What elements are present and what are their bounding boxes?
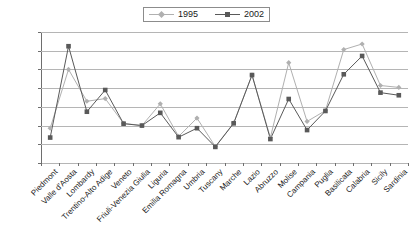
x-tick-mark bbox=[298, 163, 299, 166]
legend-entry-2002: 2002 bbox=[215, 8, 264, 21]
x-axis-label-sardinia: Sardinia bbox=[382, 168, 408, 194]
data-point-2002-Puglia bbox=[323, 109, 328, 114]
x-tick-mark bbox=[371, 163, 372, 166]
data-point-1995-Lombardy bbox=[84, 99, 89, 104]
series-line-1995 bbox=[50, 44, 399, 147]
x-axis-label-piedmont: Piedmont bbox=[30, 168, 60, 198]
data-point-2002-Lombardy bbox=[85, 109, 90, 114]
data-point-2002-Emilia Romagna bbox=[176, 135, 181, 140]
x-tick-mark bbox=[353, 163, 354, 166]
data-point-1995-Calabria bbox=[360, 41, 365, 46]
x-axis-label-sicily: Sicily bbox=[371, 168, 390, 187]
x-tick-mark bbox=[114, 163, 115, 166]
x-tick-mark bbox=[408, 163, 409, 166]
x-axis-label-lombardy: Lombardy bbox=[65, 168, 96, 199]
legend-label-1995: 1995 bbox=[178, 10, 198, 19]
x-axis-label-puglia: Puglia bbox=[314, 168, 335, 189]
x-tick-mark bbox=[243, 163, 244, 166]
legend-entry-1995: 1995 bbox=[149, 8, 198, 21]
x-tick-mark bbox=[280, 163, 281, 166]
data-point-2002-Trentino-Alto Adige bbox=[103, 88, 108, 93]
x-tick-mark bbox=[335, 163, 336, 166]
data-point-2002-Basilicata bbox=[341, 72, 346, 77]
x-tick-mark bbox=[390, 163, 391, 166]
legend-marker-1995 bbox=[149, 10, 174, 19]
x-axis-label-basilicata: Basilicata bbox=[324, 168, 354, 198]
x-axis-label-trentino-alto-adige: Trentino-Alto Adige bbox=[61, 168, 115, 222]
x-tick-mark bbox=[169, 163, 170, 166]
x-tick-mark bbox=[133, 163, 134, 166]
data-point-2002-Calabria bbox=[360, 54, 365, 59]
series-layer bbox=[41, 32, 408, 163]
x-axis-label-friuli-venezia-giulia: Friuli-Venezia Giulia bbox=[96, 168, 152, 224]
x-tick-mark bbox=[59, 163, 60, 166]
x-tick-mark bbox=[261, 163, 262, 166]
line-chart: 1995 2002 0.450.40.350.30.250.20.150.1 P… bbox=[0, 0, 417, 229]
x-tick-mark bbox=[188, 163, 189, 166]
data-point-2002-Liguria bbox=[158, 111, 163, 116]
data-point-2002-Lazio bbox=[250, 73, 255, 78]
x-axis-label-calabria: Calabria bbox=[345, 168, 372, 195]
x-tick-mark bbox=[41, 163, 42, 166]
series-line-2002 bbox=[50, 46, 399, 147]
x-axis-label-molise: Molise bbox=[276, 168, 298, 190]
data-point-2002-Tuscany bbox=[213, 145, 218, 150]
data-point-2002-Sardinia bbox=[397, 93, 402, 98]
x-axis-label-emilia-romagna: Emilia Romagna bbox=[141, 168, 188, 215]
x-axis-label-liguria: Liguria bbox=[147, 168, 170, 191]
x-tick-mark bbox=[225, 163, 226, 166]
x-axis-label-veneto: Veneto bbox=[110, 168, 133, 191]
data-point-2002-Friuli-Venezia Giulia bbox=[140, 123, 145, 128]
x-tick-mark bbox=[96, 163, 97, 166]
x-axis-label-tuscany: Tuscany bbox=[198, 168, 225, 195]
data-point-2002-Marche bbox=[231, 121, 236, 126]
x-tick-mark bbox=[316, 163, 317, 166]
legend-marker-2002 bbox=[215, 10, 240, 19]
data-point-2002-Piedmont bbox=[48, 135, 53, 140]
x-tick-mark bbox=[206, 163, 207, 166]
data-point-2002-Umbria bbox=[195, 126, 200, 131]
x-tick-mark bbox=[151, 163, 152, 166]
data-point-2002-Molise bbox=[286, 97, 291, 102]
data-point-1995-Sicily bbox=[378, 83, 383, 88]
chart-legend: 1995 2002 bbox=[143, 7, 270, 22]
data-point-1995-Basilicata bbox=[341, 47, 346, 52]
legend-label-2002: 2002 bbox=[244, 10, 264, 19]
data-point-1995-Molise bbox=[286, 60, 291, 65]
data-point-1995-Valle d'Aosta bbox=[66, 67, 71, 72]
x-axis-label-valle-d-aosta: Valle d'Aosta bbox=[40, 168, 78, 206]
x-axis-label-lazio: Lazio bbox=[243, 168, 262, 187]
x-tick-mark bbox=[78, 163, 79, 166]
data-point-1995-Sardinia bbox=[396, 85, 401, 90]
plot-area bbox=[41, 32, 408, 163]
x-axis-label-abruzzo: Abruzzo bbox=[254, 168, 280, 194]
x-axis-label-marche: Marche bbox=[218, 168, 243, 193]
data-point-1995-Campania bbox=[304, 119, 309, 124]
x-axis-label-campania: Campania bbox=[286, 168, 317, 199]
data-point-2002-Sicily bbox=[378, 90, 383, 95]
data-point-2002-Abruzzo bbox=[268, 137, 273, 142]
data-point-2002-Campania bbox=[305, 128, 310, 133]
data-point-2002-Valle d'Aosta bbox=[66, 44, 71, 49]
data-point-2002-Veneto bbox=[121, 121, 126, 126]
x-axis-label-umbria: Umbria bbox=[183, 168, 207, 192]
